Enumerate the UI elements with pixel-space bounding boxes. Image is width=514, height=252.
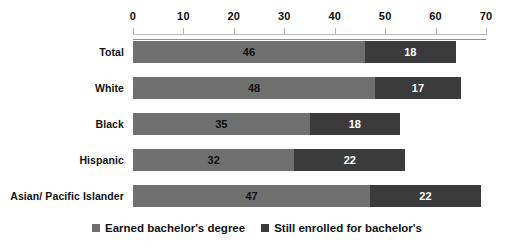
x-tick-label: 50 (379, 10, 392, 22)
bar-segment: 22 (294, 149, 405, 171)
bar-segment: 18 (365, 41, 456, 63)
category-label: Hispanic (3, 154, 133, 166)
x-tick-label: 40 (328, 10, 341, 22)
bar-segment: 48 (133, 77, 375, 99)
bar-segment: 46 (133, 41, 365, 63)
bar-value-label: 17 (412, 82, 424, 94)
category-label: Total (3, 46, 133, 58)
bar-value-label: 22 (344, 154, 356, 166)
stacked-bar: 4722 (133, 185, 481, 207)
bar-value-label: 18 (404, 46, 416, 58)
x-axis-line (133, 34, 486, 35)
legend-label: Still enrolled for bachelor's (274, 222, 422, 234)
category-label: Black (3, 118, 133, 130)
category-label: Asian/ Pacific Islander (3, 190, 133, 202)
x-tick-label: 70 (480, 10, 493, 22)
x-tick-label: 30 (278, 10, 291, 22)
legend-swatch-icon (261, 224, 269, 232)
bar-value-label: 48 (248, 82, 260, 94)
x-tick-mark (335, 28, 336, 35)
x-tick-mark (133, 28, 134, 35)
stacked-bar: 3518 (133, 113, 400, 135)
x-tick-mark (183, 28, 184, 35)
category-label: White (3, 82, 133, 94)
legend-label: Earned bachelor's degree (105, 222, 245, 234)
x-tick-mark (486, 28, 487, 35)
stacked-bar: 4817 (133, 77, 461, 99)
x-tick-label: 10 (177, 10, 190, 22)
x-tick-mark (234, 28, 235, 35)
bar-row: Total4618 (133, 41, 486, 77)
bar-value-label: 22 (419, 190, 431, 202)
legend-item[interactable]: Still enrolled for bachelor's (261, 222, 422, 234)
x-tick-label: 0 (130, 10, 136, 22)
bar-segment: 17 (375, 77, 461, 99)
x-tick-label: 60 (429, 10, 442, 22)
bar-value-label: 35 (215, 118, 227, 130)
bar-rows: Total4618White4817Black3518Hispanic3222A… (133, 41, 486, 221)
bar-segment: 32 (133, 149, 294, 171)
bar-segment: 18 (310, 113, 401, 135)
bar-value-label: 46 (243, 46, 255, 58)
legend-item[interactable]: Earned bachelor's degree (92, 222, 245, 234)
x-tick-mark (284, 28, 285, 35)
stacked-bar: 3222 (133, 149, 405, 171)
bar-segment: 22 (370, 185, 481, 207)
bar-value-label: 18 (349, 118, 361, 130)
bar-value-label: 32 (208, 154, 220, 166)
stacked-bar: 4618 (133, 41, 456, 63)
bar-value-label: 47 (245, 190, 257, 202)
bar-row: Asian/ Pacific Islander4722 (133, 185, 486, 221)
bar-segment: 35 (133, 113, 310, 135)
x-tick-mark (385, 28, 386, 35)
x-axis-tick-labels: 010203040506070 (133, 10, 486, 26)
bar-row: Hispanic3222 (133, 149, 486, 185)
bar-row: White4817 (133, 77, 486, 113)
bar-segment: 47 (133, 185, 370, 207)
bar-row: Black3518 (133, 113, 486, 149)
chart-legend: Earned bachelor's degreeStill enrolled f… (0, 222, 514, 234)
x-tick-label: 20 (228, 10, 241, 22)
legend-swatch-icon (92, 224, 100, 232)
x-axis-rule (133, 39, 486, 40)
stacked-bar-chart: 010203040506070 Total4618White4817Black3… (0, 0, 514, 252)
x-tick-mark (436, 28, 437, 35)
plot-area: 010203040506070 Total4618White4817Black3… (133, 10, 486, 215)
